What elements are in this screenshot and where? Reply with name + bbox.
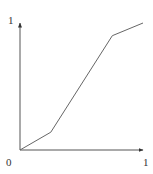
y-max-label: 1 [8, 15, 14, 26]
x-max-label: 1 [143, 157, 149, 168]
chart-canvas [0, 0, 153, 174]
data-line [20, 23, 143, 150]
origin-label: 0 [6, 157, 12, 168]
